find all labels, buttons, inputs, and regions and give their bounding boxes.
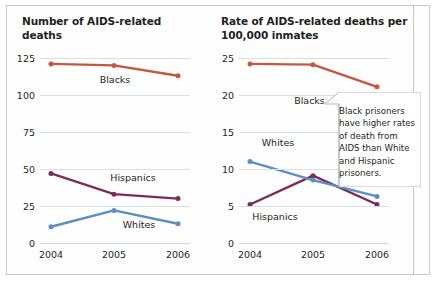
y-axis-tick-label: 50	[23, 164, 35, 175]
y-axis-tick-label: 20	[222, 90, 234, 101]
x-axis-tick-label: 2006	[365, 249, 389, 260]
chart-panel-number-of-deaths: Number of AIDS-related deaths 0255075100…	[0, 0, 205, 281]
series-line-blacks	[250, 64, 377, 87]
plot-area-number-of-deaths: 0255075100125200420052006BlacksHispanics…	[40, 58, 190, 243]
x-axis-tick-label: 2005	[301, 249, 325, 260]
data-point-whites	[49, 224, 54, 229]
gridline	[40, 132, 190, 133]
chart-title-number-of-deaths: Number of AIDS-related deaths	[22, 15, 197, 42]
data-point-blacks	[112, 63, 117, 68]
series-label-blacks: Blacks	[100, 74, 131, 85]
y-axis-tick-label: 125	[17, 53, 35, 64]
gridline	[40, 243, 190, 244]
data-point-whites	[176, 221, 181, 226]
y-axis-tick-label: 10	[222, 164, 234, 175]
data-point-blacks	[311, 62, 316, 67]
series-label-blacks: Blacks	[294, 94, 325, 105]
data-point-blacks	[375, 84, 380, 89]
gridline	[40, 169, 190, 170]
data-point-blacks	[176, 73, 181, 78]
y-axis-tick-label: 100	[17, 90, 35, 101]
data-point-hispanics	[49, 171, 54, 176]
data-point-whites	[112, 208, 117, 213]
series-label-whites: Whites	[262, 137, 295, 148]
y-axis-tick-label: 25	[23, 201, 35, 212]
data-point-hispanics	[176, 196, 181, 201]
data-point-blacks	[49, 61, 54, 66]
series-label-hispanics: Hispanics	[252, 211, 297, 222]
series-lines-number-of-deaths	[40, 58, 190, 243]
gridline	[239, 206, 389, 207]
data-point-blacks	[248, 61, 253, 66]
gridline	[239, 58, 389, 59]
y-axis-tick-label: 0	[228, 238, 234, 249]
data-point-hispanics	[311, 173, 316, 178]
x-axis-tick-label: 2004	[39, 249, 63, 260]
y-axis-tick-label: 25	[222, 53, 234, 64]
data-point-whites	[248, 159, 253, 164]
gridline	[40, 95, 190, 96]
x-axis-tick-label: 2004	[238, 249, 262, 260]
callout-box: Black prisoners have higher rates of dea…	[325, 92, 421, 187]
data-point-whites	[375, 194, 380, 199]
y-axis-tick-label: 15	[222, 127, 234, 138]
chart-title-rate-per-100000: Rate of AIDS-related deaths per 100,000 …	[221, 15, 411, 42]
data-point-whites	[311, 178, 316, 183]
data-point-hispanics	[112, 192, 117, 197]
gridline	[40, 58, 190, 59]
x-axis-tick-label: 2005	[102, 249, 126, 260]
callout-text: Black prisoners have higher rates of dea…	[339, 105, 417, 179]
gridline	[40, 206, 190, 207]
figure-root: Number of AIDS-related deaths 0255075100…	[0, 0, 437, 281]
series-label-hispanics: Hispanics	[110, 172, 155, 183]
gridline	[239, 243, 389, 244]
y-axis-tick-label: 5	[228, 201, 234, 212]
series-label-whites: Whites	[123, 218, 156, 229]
x-axis-tick-label: 2006	[166, 249, 190, 260]
y-axis-tick-label: 0	[29, 238, 35, 249]
y-axis-tick-label: 75	[23, 127, 35, 138]
